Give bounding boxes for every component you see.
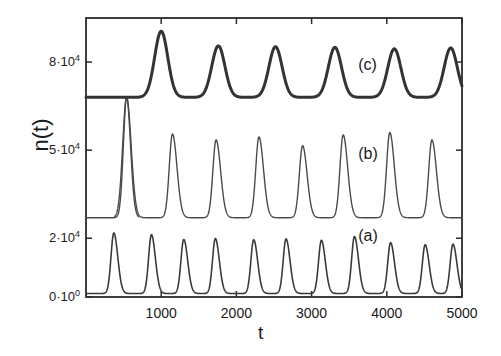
x-axis-label: t xyxy=(258,322,263,344)
x-tick-label: 1000 xyxy=(131,305,191,321)
figure-container: n(t) t 8·1045·1042·1040·100 100020003000… xyxy=(0,0,501,356)
y-axis-label: n(t) xyxy=(28,100,54,170)
y-tick-label: 8·104 xyxy=(18,53,80,69)
x-tick-label: 5000 xyxy=(432,305,492,321)
y-tick-label: 0·100 xyxy=(18,288,80,304)
x-tick-label: 3000 xyxy=(282,305,342,321)
x-tick-label: 2000 xyxy=(206,305,266,321)
x-tick-label: 4000 xyxy=(357,305,417,321)
curve-label-b: (b) xyxy=(358,145,378,163)
y-tick-label: 2·104 xyxy=(18,229,80,245)
curve-label-a: (a) xyxy=(358,227,378,245)
curve-label-c: (c) xyxy=(358,56,377,74)
y-tick-label: 5·104 xyxy=(18,141,80,157)
